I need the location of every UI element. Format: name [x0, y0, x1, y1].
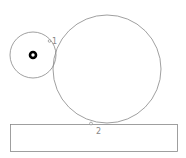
diagram-canvas: 1 2: [0, 0, 186, 158]
hub-icon: [30, 52, 36, 58]
contact-label-1: 1: [52, 37, 57, 46]
contact-point-2: [90, 122, 93, 125]
base-rectangle: [11, 125, 178, 152]
contact-point-1: [48, 40, 51, 43]
contact-label-2: 2: [96, 127, 101, 136]
small-circle: [10, 32, 56, 78]
large-circle: [53, 15, 161, 123]
